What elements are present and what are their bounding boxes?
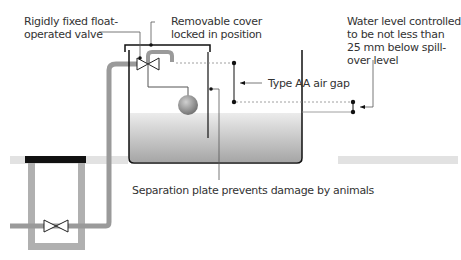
- separation-plate-label: Separation plate prevents damage by anim…: [132, 184, 374, 197]
- water-level-label: Water level controlled to be not less th…: [347, 15, 461, 67]
- float-valve: [137, 52, 198, 115]
- cover-label-line: Removable cover: [171, 15, 262, 28]
- stop-valve-icon: [44, 220, 68, 232]
- water-level-label-line: Water level controlled: [347, 15, 461, 28]
- water-level-label-line: 25 mm below spill-: [347, 41, 461, 54]
- water-level-label-line: over level: [347, 54, 461, 67]
- tank-water: [129, 113, 302, 162]
- chamber-cover: [25, 156, 86, 163]
- valve-label: Rigidly fixed float- operated valve: [24, 15, 118, 41]
- valve-label-line: Rigidly fixed float-: [24, 15, 118, 28]
- spillover-dimension: [351, 100, 355, 114]
- water-level-label-line: to be not less than: [347, 28, 461, 41]
- cover-label-line: locked in position: [171, 28, 262, 41]
- valve-label-line: operated valve: [24, 28, 118, 41]
- air-gap-dimension: [232, 61, 236, 104]
- air-gap-label: Type AA air gap: [268, 77, 350, 90]
- float-ball: [178, 95, 198, 115]
- cover-label: Removable cover locked in position: [171, 15, 262, 41]
- valve-chamber: [25, 156, 86, 250]
